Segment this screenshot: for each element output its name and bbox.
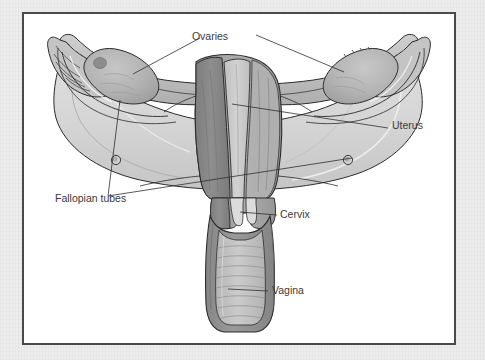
diagram-page: Ovaries Uterus Fallopian tubes Cervix Va… <box>0 0 485 360</box>
left-ovarian-follicle <box>94 58 107 69</box>
ligament-tube-node-right <box>343 155 352 164</box>
vagina <box>206 216 275 332</box>
leader-ovaries-left <box>133 38 200 74</box>
anatomy-figure: Ovaries Uterus Fallopian tubes Cervix Va… <box>0 0 485 360</box>
label-uterus: Uterus <box>392 119 423 131</box>
label-vagina: Vagina <box>272 284 304 296</box>
leader-ovaries-right <box>256 35 344 72</box>
label-cervix: Cervix <box>280 208 311 220</box>
label-fallopian-tubes: Fallopian tubes <box>55 192 126 204</box>
label-ovaries: Ovaries <box>192 30 228 42</box>
